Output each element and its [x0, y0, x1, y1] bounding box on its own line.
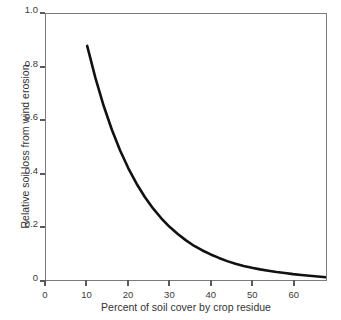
- y-tick-label: 0: [33, 273, 38, 283]
- chart-figure: 00.20.40.60.81.0 0102030405060 Percent o…: [0, 0, 341, 320]
- x-tick-label: 10: [66, 289, 106, 300]
- x-tick-mark: [127, 280, 129, 286]
- x-tick-label: 0: [25, 289, 65, 300]
- x-tick-mark: [293, 280, 295, 286]
- x-tick-label: 20: [108, 289, 148, 300]
- y-tick-mark: [40, 12, 45, 14]
- y-tick-mark: [40, 173, 45, 175]
- y-tick-mark: [40, 66, 45, 68]
- x-axis-title: Percent of soil cover by crop residue: [45, 301, 327, 314]
- x-tick-mark: [168, 280, 170, 286]
- x-tick-label: 30: [149, 289, 189, 300]
- x-tick-label: 40: [191, 289, 231, 300]
- y-axis-title: Relative soil loss from wind erosion: [19, 13, 32, 281]
- data-curve-svg: [46, 14, 326, 280]
- x-tick-mark: [251, 280, 253, 286]
- x-tick-label: 50: [232, 289, 272, 300]
- y-tick-mark: [40, 226, 45, 228]
- x-tick-label: 60: [274, 289, 314, 300]
- x-tick-mark: [85, 280, 87, 286]
- plot-area: [45, 13, 327, 281]
- x-tick-mark: [210, 280, 212, 286]
- data-series-line: [87, 46, 326, 277]
- x-tick-mark: [44, 280, 46, 286]
- y-tick-mark: [40, 119, 45, 121]
